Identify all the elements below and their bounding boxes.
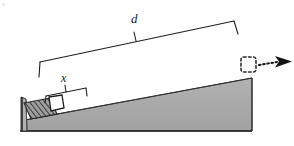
diagram-canvas	[0, 0, 294, 146]
velocity-arrow	[259, 56, 292, 68]
dimension-line-d	[39, 21, 238, 77]
compression-label-x: x	[61, 72, 66, 84]
dimension-d-tick-center	[134, 32, 136, 41]
distance-label-d: d	[131, 12, 138, 25]
dimension-d-span	[40, 21, 234, 62]
ghost-block-outline	[241, 57, 256, 72]
ghost-block	[241, 57, 256, 72]
dimension-x-tick-right	[86, 88, 87, 96]
dimension-x-tick-center	[65, 85, 66, 92]
velocity-arrow-shaft	[259, 62, 277, 65]
block-body	[49, 95, 64, 111]
block	[49, 95, 64, 111]
dimension-d-tick-right	[234, 21, 238, 34]
dimension-d-tick-left	[39, 62, 40, 77]
physics-diagram-figure: s	[0, 0, 294, 146]
